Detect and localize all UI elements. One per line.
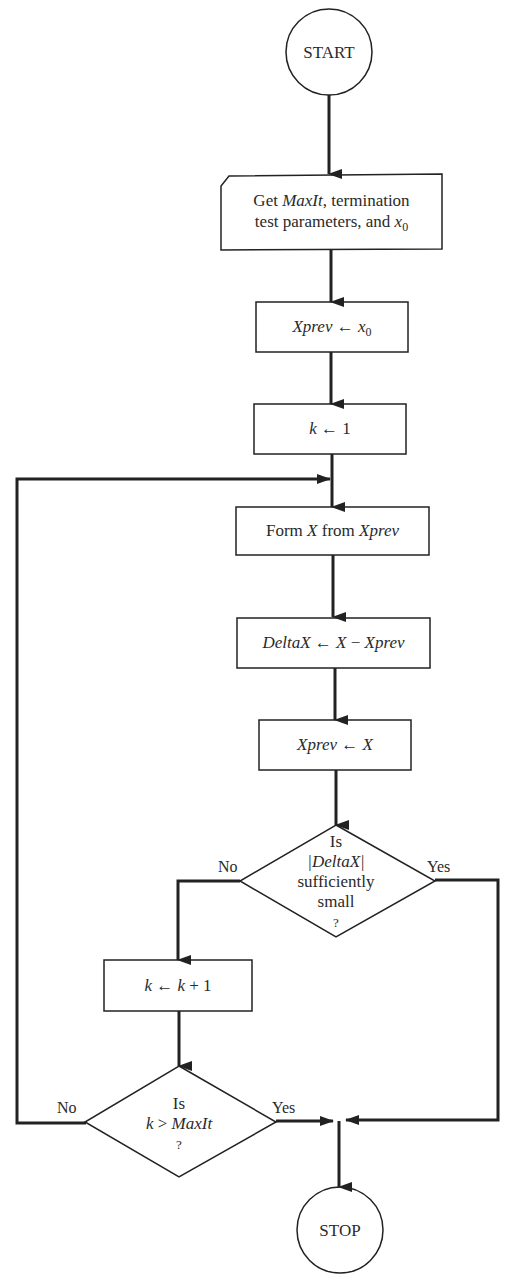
form-x-c: from [317, 521, 359, 540]
delta-b: X [336, 633, 346, 652]
test-k-no-label: No [57, 1099, 77, 1117]
inc-k-a: k [144, 976, 152, 995]
update-xprev-b: X [363, 735, 373, 754]
delta-c: − [346, 633, 364, 652]
init-xprev-a: Xprev [292, 317, 332, 336]
input-line2-sub: 0 [402, 220, 408, 234]
init-xprev-sub: 0 [366, 325, 372, 339]
inc-k-c: + 1 [185, 976, 212, 995]
init-k-a: k [309, 419, 317, 438]
edge-test-delta-no [178, 881, 240, 960]
start-label: START [286, 42, 372, 63]
delta-arrow: ← [311, 633, 337, 652]
input-line2-x: x [395, 212, 403, 231]
init-xprev-label: Xprev ← x0 [256, 316, 408, 343]
stop-label: STOP [297, 1220, 383, 1241]
test-k-gt: > [153, 1114, 171, 1133]
input-label: Get MaxIt, termination test parameters, … [221, 190, 442, 238]
form-x-a: Form [266, 521, 307, 540]
test-delta-line5: ? [333, 915, 339, 930]
test-delta-no-label: No [218, 858, 238, 876]
delta-a: DeltaX [262, 633, 310, 652]
edge-loop-back [17, 479, 330, 1123]
test-delta-line4: small [318, 892, 355, 911]
test-delta-line1: Is [330, 832, 342, 851]
test-delta-yes-label: Yes [427, 858, 450, 876]
test-k-line3: ? [176, 1137, 182, 1152]
test-k-yes-label: Yes [272, 1099, 295, 1117]
input-line2-a: test parameters, and [255, 212, 395, 231]
init-xprev-arrow: ← [332, 317, 358, 336]
input-line1-a: Get [253, 191, 282, 210]
test-k-label: Is k > MaxIt ? [124, 1094, 234, 1155]
init-k-label: k ← 1 [254, 418, 406, 439]
test-delta-line3: sufficiently [297, 872, 374, 891]
update-xprev-arrow: ← [337, 735, 363, 754]
inc-k-b: k [177, 976, 185, 995]
test-k-line1: Is [173, 1094, 185, 1113]
update-xprev-a: Xprev [297, 735, 337, 754]
form-x-label: Form X from Xprev [236, 520, 429, 541]
inc-k-arrow: ← [152, 976, 178, 995]
init-k-b: 1 [342, 419, 351, 438]
inc-k-label: k ← k + 1 [104, 975, 252, 996]
delta-d: Xprev [365, 633, 405, 652]
init-k-arrow: ← [317, 419, 343, 438]
input-line1-c: , termination [323, 191, 410, 210]
test-k-maxit: MaxIt [172, 1114, 213, 1133]
form-x-b: X [307, 521, 317, 540]
delta-label: DeltaX ← X − Xprev [237, 632, 430, 653]
input-line1-maxit: MaxIt [282, 191, 323, 210]
test-delta-label: Is |DeltaX| sufficiently small ? [276, 832, 396, 933]
form-x-d: Xprev [359, 521, 399, 540]
init-xprev-b: x [358, 317, 366, 336]
test-delta-line2: |DeltaX| [307, 852, 365, 871]
update-xprev-label: Xprev ← X [259, 734, 411, 755]
